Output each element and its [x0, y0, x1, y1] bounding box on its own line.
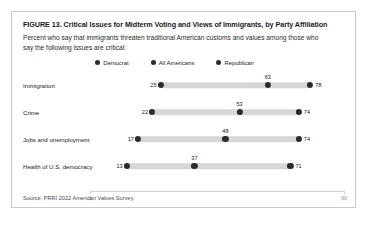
- data-label-republican: 71: [295, 163, 301, 169]
- chart-row: Crime 22 53 74: [12, 99, 355, 126]
- axis-tick-label-max: 90: [341, 195, 347, 201]
- row-category-label: Crime: [23, 109, 39, 116]
- data-label-all-americans: 37: [191, 155, 197, 161]
- row-track-area: 22 53 74: [90, 99, 344, 126]
- figure-subtitle: Percent who say that immigrants threaten…: [23, 33, 323, 53]
- data-point-republican: [296, 109, 302, 115]
- data-label-democrat: 25: [150, 82, 156, 88]
- figure-title: FIGURE 13. Critical Issues for Midterm V…: [23, 20, 344, 29]
- row-track-area: 13 37 71: [90, 153, 344, 180]
- data-label-all-americans: 63: [265, 74, 271, 80]
- legend-label-republican: Republican: [224, 60, 253, 66]
- data-label-democrat: 17: [128, 136, 134, 142]
- data-label-all-americans: 48: [222, 128, 228, 134]
- legend-dot-icon-all-americans: [151, 60, 156, 65]
- legend-dot-icon-democrat: [95, 60, 100, 65]
- legend-item-all-americans: All Americans: [151, 60, 195, 66]
- legend-label-all-americans: All Americans: [159, 60, 195, 66]
- data-label-democrat: 22: [142, 109, 148, 115]
- row-range-bar: [138, 137, 299, 143]
- data-label-republican: 78: [315, 82, 321, 88]
- row-range-bar: [152, 110, 299, 116]
- data-label-republican: 74: [304, 136, 310, 142]
- legend-item-republican: Republican: [216, 60, 253, 66]
- axis-line: [90, 191, 344, 192]
- data-point-republican: [296, 136, 302, 142]
- chart-row: Health of U.S. democracy 13 37 71: [12, 153, 355, 180]
- data-label-all-americans: 53: [236, 101, 242, 107]
- legend-dot-icon-republican: [216, 60, 221, 65]
- row-range-bar: [127, 164, 291, 170]
- chart-legend: Democrat All Americans Republican: [12, 60, 355, 66]
- row-track-area: 17 48 74: [90, 126, 344, 153]
- axis-tick-min: [90, 191, 91, 194]
- row-category-label: Health of U.S. democracy: [23, 163, 92, 170]
- axis-tick-max: [344, 191, 345, 194]
- legend-label-democrat: Democrat: [103, 60, 129, 66]
- row-category-label: Immigration: [23, 82, 55, 89]
- data-label-republican: 74: [304, 109, 310, 115]
- row-track-area: 25 63 78: [90, 72, 344, 99]
- legend-item-democrat: Democrat: [95, 60, 129, 66]
- figure-source: Source: PRRI 2022 American Values Survey…: [23, 195, 134, 201]
- data-label-democrat: 13: [116, 163, 122, 169]
- figure-header: FIGURE 13. Critical Issues for Midterm V…: [12, 12, 355, 53]
- figure-card: FIGURE 13. Critical Issues for Midterm V…: [11, 11, 356, 208]
- chart-plot-area: Immigration 25 63 78 Crime 22 53 74: [12, 72, 355, 190]
- chart-row: Immigration 25 63 78: [12, 72, 355, 99]
- data-point-republican: [287, 163, 293, 169]
- row-category-label: Jobs and unemployment: [23, 136, 89, 143]
- chart-row: Jobs and unemployment 17 48 74: [12, 126, 355, 153]
- row-range-bar: [161, 83, 311, 89]
- data-point-republican: [307, 82, 313, 88]
